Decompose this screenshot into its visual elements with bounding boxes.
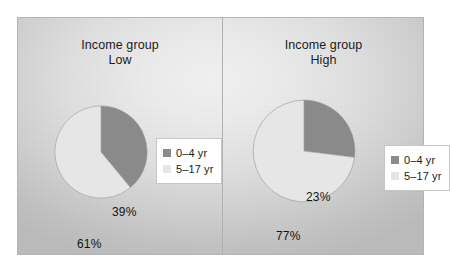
pie-high-slice-0-4yr	[304, 100, 355, 157]
pie-low-svg	[53, 104, 149, 200]
pie-high-label-0-4yr: 23%	[306, 190, 331, 204]
legend-low: 0–4 yr 5–17 yr	[156, 138, 222, 184]
square-swatch-icon	[163, 165, 171, 173]
legend-high: 0–4 yr 5–17 yr	[384, 145, 450, 191]
pie-low-label-0-4yr: 39%	[112, 205, 137, 219]
pie-high-label-5-17yr: 77%	[276, 229, 301, 243]
legend-low-label-5-17yr: 5–17 yr	[176, 163, 213, 175]
square-swatch-icon	[391, 156, 399, 164]
chart-panel: Income group Low 39% 61% 0–4 yr	[17, 17, 424, 255]
legend-low-row-0-4yr: 0–4 yr	[163, 145, 213, 161]
square-swatch-icon	[163, 149, 171, 157]
facet-income-group-low: Income group Low 39% 61% 0–4 yr	[18, 18, 222, 254]
legend-high-label-0-4yr: 0–4 yr	[404, 154, 435, 166]
pie-low-label-5-17yr: 61%	[77, 237, 102, 251]
facet-income-group-high: Income group High 23% 77% 0–4 yr	[223, 18, 424, 254]
pie-high-svg	[251, 98, 357, 204]
legend-low-row-5-17yr: 5–17 yr	[163, 161, 213, 177]
legend-low-label-0-4yr: 0–4 yr	[176, 147, 207, 159]
legend-high-label-5-17yr: 5–17 yr	[404, 170, 441, 182]
pie-chart-high: 23% 77%	[251, 98, 357, 204]
facet-title-high: Income group High	[223, 38, 424, 68]
legend-high-row-0-4yr: 0–4 yr	[391, 152, 441, 168]
facet-title-low: Income group Low	[18, 38, 222, 68]
pie-chart-low: 39% 61%	[53, 104, 149, 200]
legend-high-row-5-17yr: 5–17 yr	[391, 168, 441, 184]
square-swatch-icon	[391, 172, 399, 180]
